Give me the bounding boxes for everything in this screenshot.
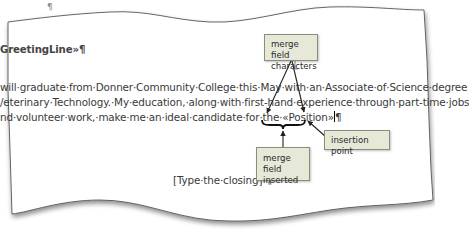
callout-line: insertion point bbox=[331, 135, 383, 157]
callout-line: merge field bbox=[263, 153, 303, 175]
callout-merge-field-characters: merge field characters bbox=[264, 34, 318, 61]
paragraph-mark: ¶ bbox=[47, 2, 53, 12]
body-line-3-text: nd·volunteer·work,·make·me·an·ideal·cand… bbox=[0, 111, 282, 123]
pilcrow-mark: ¶ bbox=[335, 111, 341, 123]
greeting-line-merge-field[interactable]: GreetingLine»¶ bbox=[0, 44, 85, 55]
body-line-2: /eterinary·Technology.·My·education,·alo… bbox=[0, 96, 469, 108]
body-line-1: will·graduate·from·Donner·Community·Coll… bbox=[0, 81, 467, 93]
callout-line: merge field bbox=[271, 39, 311, 61]
callout-insertion-point: insertion point bbox=[324, 130, 390, 150]
callout-merge-field-inserted: merge field inserted bbox=[256, 147, 310, 181]
body-line-3: nd·volunteer·work,·make·me·an·ideal·cand… bbox=[0, 111, 341, 123]
callout-line: inserted bbox=[263, 175, 303, 186]
callout-line: characters bbox=[271, 61, 311, 72]
position-merge-field[interactable]: «Position» bbox=[282, 111, 334, 123]
